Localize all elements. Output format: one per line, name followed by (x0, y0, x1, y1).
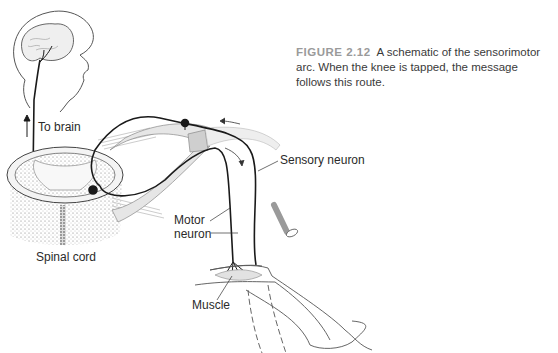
spinal-cord-icon (7, 128, 164, 245)
to-brain-label: To brain (38, 120, 81, 134)
direction-arrows (220, 118, 244, 166)
sensorimotor-arc-figure: FIGURE 2.12A schematic of the sensorimot… (0, 0, 558, 353)
brain-icon (22, 24, 74, 61)
spinal-cord-label: Spinal cord (36, 250, 96, 264)
muscle-icon (215, 270, 262, 281)
up-arrow-icon (24, 115, 30, 137)
muscle-label: Muscle (192, 298, 230, 312)
figure-caption: FIGURE 2.12A schematic of the sensorimot… (296, 45, 556, 90)
sensory-neuron-label: Sensory neuron (280, 153, 365, 167)
reflex-hammer-icon (274, 205, 299, 238)
figure-number: FIGURE 2.12 (296, 46, 371, 58)
motor-neuron-label-line1: Motor (174, 213, 205, 227)
motor-neuron-label-line2: neuron (174, 227, 211, 241)
